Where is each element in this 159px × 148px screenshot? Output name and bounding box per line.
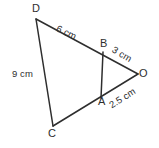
vertex-label-C: C <box>48 128 56 139</box>
length-label-DC: 9 cm <box>12 69 33 79</box>
vertex-label-D: D <box>32 3 40 14</box>
vertex-label-B: B <box>100 38 108 49</box>
segment-D-to-O <box>36 19 138 74</box>
segment-B-to-A <box>101 52 103 98</box>
vertex-label-A: A <box>98 96 106 107</box>
vertex-label-O: O <box>139 68 148 79</box>
segment-D-to-C <box>36 19 53 126</box>
geometry-figure: D B O A C 6 cm 3 cm 2.5 cm 9 cm <box>0 0 159 148</box>
